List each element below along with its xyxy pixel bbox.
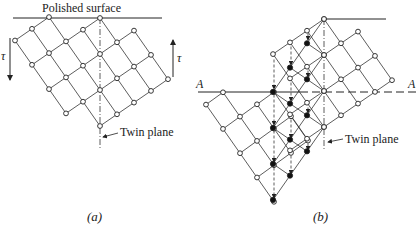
twinned-atom (304, 113, 309, 118)
lattice-edge (223, 92, 240, 116)
atom (373, 54, 378, 59)
shear-label-left: τ (1, 50, 5, 62)
atom (64, 111, 69, 116)
atom (305, 100, 310, 105)
lattice-edge (49, 89, 66, 113)
lattice-edge (240, 117, 257, 141)
lattice-edge (257, 104, 274, 128)
lattice-edge (358, 32, 375, 56)
lattice-edge (290, 42, 307, 66)
lattice-edge (66, 30, 83, 42)
atom (339, 77, 344, 82)
twinned-atom (287, 65, 292, 70)
lattice-edge (223, 117, 240, 129)
lattice-edge (290, 78, 307, 102)
lattice-edge (206, 92, 223, 104)
lattice-edge (290, 43, 307, 67)
lattice-edge (341, 43, 358, 67)
lattice-edge (49, 17, 66, 41)
lattice-edge (341, 104, 358, 116)
atom (322, 17, 327, 22)
lattice-edge (223, 129, 240, 153)
atom (64, 75, 69, 80)
atom (30, 26, 35, 31)
lattice-edge (375, 56, 392, 80)
atom (322, 125, 327, 130)
lattice-edge (341, 79, 358, 103)
plane-a-label-right: A (408, 78, 415, 90)
atom (98, 124, 103, 129)
atom (64, 39, 69, 44)
lattice-edge (273, 176, 290, 200)
lattice-edge (117, 42, 134, 66)
lattice-edge (206, 105, 223, 129)
atom (204, 102, 209, 107)
atom (98, 52, 103, 57)
lattice-edge (307, 127, 324, 139)
lattice-edge (307, 55, 324, 67)
atom (356, 65, 361, 70)
atom (305, 28, 310, 33)
lattice-edge (100, 18, 117, 42)
atom (115, 112, 120, 117)
lattice-edge (324, 79, 341, 91)
lattice-edge (273, 42, 290, 54)
lattice-edge (341, 68, 358, 80)
lattice-edge (15, 29, 32, 41)
atom (98, 88, 103, 93)
twinned-atom (270, 161, 275, 166)
lattice-edge (307, 19, 324, 31)
lattice-edge (324, 115, 341, 127)
lattice-edge (324, 91, 341, 115)
lattice-edge (100, 90, 117, 114)
lattice-edge (32, 17, 49, 29)
lattice-edge (100, 78, 117, 90)
polished-surface-label: Polished surface (42, 2, 121, 14)
atom (81, 63, 86, 68)
lattice-edge (66, 102, 83, 114)
caption-b: (b) (313, 210, 328, 223)
atom (221, 90, 226, 95)
lattice-edge (273, 68, 290, 92)
lattice-edge (324, 43, 341, 55)
lattice-edge (134, 91, 151, 103)
atom (221, 126, 226, 131)
atom (288, 148, 293, 153)
twinned-atom (270, 125, 275, 130)
lattice-edge (341, 32, 358, 44)
lattice-edge (240, 141, 257, 153)
lattice-edge (324, 19, 341, 43)
lattice-edge (32, 65, 49, 89)
lattice-edge (358, 56, 375, 68)
lattice-edge (83, 102, 100, 126)
atom (81, 27, 86, 32)
atom (132, 64, 137, 69)
lattice-edge (32, 53, 49, 65)
atom (13, 38, 18, 43)
plane-a-label-left: A (196, 78, 203, 90)
lattice-edge (307, 91, 324, 103)
atom (356, 101, 361, 106)
atom (47, 87, 52, 92)
lattice-edge (83, 90, 100, 102)
twinned-atom (287, 101, 292, 106)
lattice-edge (324, 55, 341, 79)
lattice-edge (66, 41, 83, 65)
lattice-edge (307, 115, 324, 127)
twin-plane-label-b: Twin plane (345, 133, 398, 145)
lattice-edge (83, 18, 100, 30)
lattice-edge (100, 54, 117, 78)
twin-plane-label-a: Twin plane (120, 126, 173, 138)
lattice-edge (307, 43, 324, 55)
atom (255, 102, 260, 107)
lattice-edge (151, 55, 168, 79)
atom (98, 16, 103, 21)
atom (305, 136, 310, 141)
caption-a: (a) (87, 210, 102, 223)
atom (305, 64, 310, 69)
lattice-edge (15, 41, 32, 65)
twinned-atom (270, 89, 275, 94)
lattice-edge (49, 41, 66, 53)
lattice-edge (358, 68, 375, 92)
twinned-atom (287, 173, 292, 178)
